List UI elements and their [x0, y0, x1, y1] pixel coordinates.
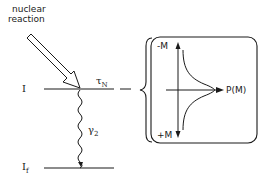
gamma-label: γ2: [88, 125, 98, 139]
final-level-subscript: f: [26, 167, 29, 175]
reaction-label-line1: nuclear: [12, 5, 46, 14]
reaction-label-line2: reaction: [8, 15, 45, 24]
m-axis-down-arrow-icon: [176, 131, 181, 138]
final-level-label: If: [22, 162, 29, 176]
initial-level-label: I: [22, 84, 26, 93]
lifetime-subscript: N: [102, 81, 108, 89]
gamma-subscript: 2: [94, 130, 98, 138]
plus-m-label: +M: [157, 131, 172, 140]
minus-m-label: -M: [157, 42, 168, 51]
reaction-arrow-icon: [27, 34, 80, 88]
curly-brace: [140, 38, 152, 142]
lifetime-label: τN: [96, 76, 108, 90]
gamma-wavy-line: [78, 90, 82, 168]
m-axis-up-arrow-icon: [176, 42, 181, 49]
p-of-m-label: P(M): [226, 86, 246, 95]
p-axis-arrow-icon: [216, 87, 224, 93]
